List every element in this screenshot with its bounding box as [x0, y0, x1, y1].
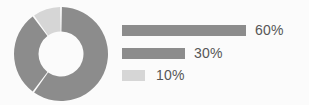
legend-bar-swatch	[122, 70, 145, 81]
legend-item[interactable]: 60%	[122, 20, 284, 40]
donut-slice[interactable]	[14, 17, 47, 92]
legend-bar-swatch	[122, 25, 246, 36]
legend: 60% 30% 10%	[122, 20, 309, 90]
legend-item-label: 10%	[156, 68, 185, 82]
legend-item-label: 30%	[194, 46, 223, 60]
legend-item[interactable]: 30%	[122, 43, 223, 63]
donut-slice-group	[14, 7, 108, 101]
donut-chart-container	[13, 6, 109, 102]
legend-item-label: 60%	[255, 23, 284, 37]
donut-bar-infographic: 60% 30% 10%	[0, 0, 309, 105]
legend-item[interactable]: 10%	[122, 65, 185, 85]
donut-chart	[13, 6, 109, 102]
legend-bar-swatch	[122, 48, 185, 59]
